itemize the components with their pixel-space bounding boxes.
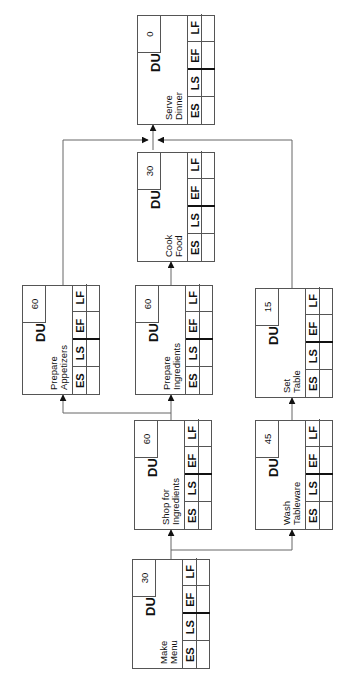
es-value (197, 641, 210, 669)
ls-value (200, 339, 213, 367)
divider-line (188, 205, 215, 207)
ef-label: EF (188, 42, 202, 70)
ef-label: EF (183, 586, 197, 614)
lf-value (320, 287, 333, 315)
es-value (320, 370, 333, 398)
es-value (320, 502, 333, 530)
divider-line (306, 473, 333, 475)
task-name: Prepare Ingredients (162, 343, 182, 390)
ls-value (202, 69, 215, 97)
ls-value (202, 206, 215, 234)
duration-value: 60 (134, 420, 158, 458)
es-label: ES (73, 367, 87, 395)
ls-value (320, 342, 333, 370)
duration-value: 30 (137, 152, 161, 190)
lf-value (197, 558, 210, 586)
ls-value (199, 474, 212, 502)
ls-value (87, 339, 100, 367)
task-name: Set Table (282, 370, 302, 393)
task-name: Cook Food (164, 235, 184, 257)
divider-line (186, 338, 213, 340)
lf-value (87, 284, 100, 312)
ls-value (197, 613, 210, 641)
lf-label: LF (306, 419, 320, 447)
es-value (200, 367, 213, 395)
divider-line (183, 612, 210, 614)
ls-label: LS (73, 339, 87, 367)
ef-value (202, 42, 215, 70)
ef-value (320, 447, 333, 475)
task-name: Shop for Ingredients (161, 478, 181, 525)
divider-line (306, 341, 333, 343)
es-label: ES (306, 502, 320, 530)
es-label: ES (185, 502, 199, 530)
duration-label: DU (146, 323, 161, 342)
ef-value (87, 312, 100, 340)
lf-value (202, 151, 215, 179)
ls-label: LS (183, 613, 197, 641)
ef-label: EF (188, 179, 202, 207)
duration-value: 60 (135, 285, 159, 323)
es-value (87, 367, 100, 395)
task-name: Wash Tableware (282, 482, 302, 525)
duration-label: DU (266, 326, 281, 345)
lf-value (202, 14, 215, 42)
lf-label: LF (185, 419, 199, 447)
duration-value: 60 (22, 285, 46, 323)
es-value (202, 97, 215, 125)
lf-value (200, 284, 213, 312)
task-name: Make Menu (159, 640, 179, 664)
duration-label: DU (148, 53, 163, 72)
divider-line (73, 338, 100, 340)
lf-label: LF (183, 558, 197, 586)
lf-value (199, 419, 212, 447)
divider-line (188, 68, 215, 70)
ls-label: LS (185, 474, 199, 502)
ef-value (199, 447, 212, 475)
ef-label: EF (306, 315, 320, 343)
lf-label: LF (188, 151, 202, 179)
ef-label: EF (185, 447, 199, 475)
es-label: ES (306, 370, 320, 398)
task-name: Prepare Appetizers (49, 345, 69, 390)
es-value (199, 502, 212, 530)
ls-label: LS (186, 339, 200, 367)
es-label: ES (186, 367, 200, 395)
duration-label: DU (266, 458, 281, 477)
ef-label: EF (306, 447, 320, 475)
ef-label: EF (186, 312, 200, 340)
ef-label: EF (73, 312, 87, 340)
divider-line (185, 473, 212, 475)
duration-value: 0 (137, 15, 161, 53)
ls-label: LS (188, 69, 202, 97)
es-label: ES (188, 234, 202, 262)
ls-label: LS (306, 342, 320, 370)
ef-value (197, 586, 210, 614)
ef-value (200, 312, 213, 340)
duration-value: 30 (132, 559, 156, 597)
task-name: Serve Dinner (164, 92, 184, 120)
ls-label: LS (306, 474, 320, 502)
lf-label: LF (186, 284, 200, 312)
es-label: ES (188, 97, 202, 125)
ls-label: LS (188, 206, 202, 234)
duration-label: DU (148, 190, 163, 209)
es-value (202, 234, 215, 262)
es-label: ES (183, 641, 197, 669)
duration-label: DU (143, 597, 158, 616)
lf-label: LF (306, 287, 320, 315)
duration-value: 45 (255, 420, 279, 458)
ls-value (320, 474, 333, 502)
duration-value: 15 (255, 288, 279, 326)
network-diagram: Make Menu DU 30 ES LS EF LF Shop for Ing… (0, 0, 341, 679)
lf-value (320, 419, 333, 447)
duration-label: DU (145, 458, 160, 477)
ef-value (202, 179, 215, 207)
lf-label: LF (73, 284, 87, 312)
duration-label: DU (33, 323, 48, 342)
lf-label: LF (188, 14, 202, 42)
ef-value (320, 315, 333, 343)
